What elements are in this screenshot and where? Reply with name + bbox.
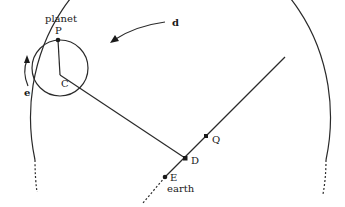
line-e-dashed	[143, 177, 165, 203]
deferent-dashed-right	[323, 160, 326, 194]
deferent-arc	[31, 0, 331, 160]
label-e-point: E	[170, 172, 177, 183]
label-d-point: D	[191, 155, 199, 166]
point-q	[204, 134, 208, 138]
label-e: e	[24, 87, 30, 98]
label-d: d	[172, 17, 179, 28]
arrow-e-icon	[25, 60, 28, 86]
label-p: P	[55, 25, 62, 36]
deferent-dashed-left	[35, 160, 37, 192]
epicycle-diagram: planet P C e d Q D E earth	[0, 0, 345, 207]
arrowhead-d-icon	[110, 35, 119, 43]
point-p	[56, 38, 61, 43]
label-earth: earth	[167, 183, 195, 194]
point-d	[183, 156, 188, 161]
label-c: C	[61, 78, 69, 89]
label-planet: planet	[45, 13, 77, 24]
radius-c-p	[58, 40, 60, 75]
arrow-d-icon	[114, 22, 165, 40]
point-e	[163, 175, 168, 180]
label-q: Q	[212, 134, 220, 145]
arrowhead-e-icon	[24, 55, 30, 63]
line-c-d	[60, 75, 185, 158]
